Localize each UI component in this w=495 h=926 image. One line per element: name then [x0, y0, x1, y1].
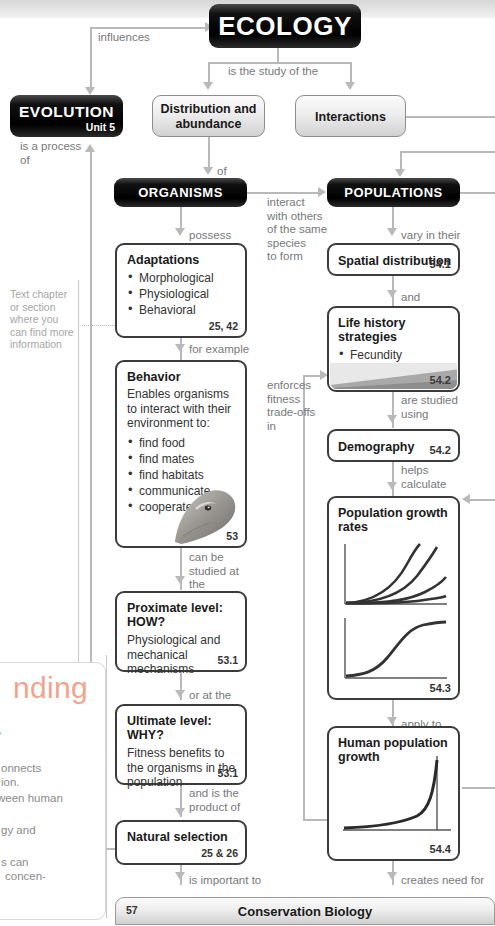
cut-off-side-panel: nding • onnects ion. ween human gy and s… — [0, 662, 106, 920]
node-ultimate-level[interactable]: Ultimate level: WHY? Fitness benefits to… — [115, 704, 247, 785]
label-are-studied-using: are studied using — [401, 394, 458, 421]
bullet-item: Morphological — [127, 270, 245, 286]
label-can-be-studied: can be studied at the — [189, 551, 239, 592]
arrow-to-demography — [387, 415, 397, 423]
connector-influences-down — [90, 27, 92, 89]
node-distribution-abundance[interactable]: Distribution and abundance — [152, 95, 265, 137]
node-ecology-title: ECOLOGY — [209, 4, 361, 48]
connector-right-bus-upper — [400, 151, 495, 153]
arrow-to-growth-rates — [387, 482, 397, 490]
node-proximate-ref: 53.1 — [218, 654, 238, 666]
node-interactions[interactable]: Interactions — [295, 95, 406, 137]
connector-populations-right — [460, 192, 495, 194]
connector-ecology-influences — [90, 27, 208, 29]
connector-interactions-right — [406, 116, 495, 118]
node-ultimate-body: Fitness benefits to the organisms in the… — [117, 742, 245, 790]
node-demography-ref: 54.2 — [430, 444, 451, 456]
node-adaptations[interactable]: Adaptations Morphological Physiological … — [115, 243, 247, 338]
node-organisms[interactable]: ORGANISMS — [114, 178, 247, 207]
bullet-item: find food — [127, 435, 245, 451]
node-ecology[interactable]: ECOLOGY — [209, 4, 361, 48]
node-populations[interactable]: POPULATIONS — [327, 178, 460, 207]
node-behavior-title: Behavior — [117, 362, 245, 384]
annotation-text-chapter: Text chapter or section where you can fi… — [10, 288, 78, 351]
node-evolution[interactable]: EVOLUTION Unit 5 — [10, 95, 123, 137]
arrow-to-interactions — [345, 82, 355, 90]
cut-panel-line: onnects — [1, 761, 41, 775]
bullet-item: find habitats — [127, 467, 245, 483]
label-for-example: for example — [189, 343, 249, 357]
node-adaptations-title: Adaptations — [117, 245, 245, 267]
connector-organisms-populations — [247, 192, 322, 194]
arrow-to-evolution-bottom — [85, 144, 95, 152]
arrow-to-human-growth — [387, 717, 397, 725]
node-ultimate-ref: 53.1 — [218, 767, 238, 779]
arrow-to-populations-top — [395, 169, 405, 177]
node-proximate-body: Physiological and mechanical mechanisms — [117, 629, 245, 677]
label-interact-to-form: interact with others of the same species… — [267, 196, 327, 264]
connector-human-right — [462, 787, 495, 789]
label-and-is-product-of: and is the product of — [189, 787, 240, 814]
node-populations-title: POPULATIONS — [327, 178, 460, 207]
arrow-to-behavior — [175, 344, 185, 352]
node-interactions-title: Interactions — [296, 96, 405, 138]
arrow-to-proximate — [175, 576, 185, 584]
node-behavior[interactable]: Behavior Enables organisms to interact w… — [115, 360, 247, 548]
connector-ecology-bus — [208, 62, 351, 64]
connector-enforces-riser — [303, 375, 305, 820]
node-adaptations-ref: 25, 42 — [209, 320, 238, 332]
node-distribution-title: Distribution and abundance — [153, 96, 264, 131]
arrow-to-ultimate — [175, 690, 185, 698]
arrow-to-spatial — [387, 228, 397, 236]
label-vary-in-their: vary in their — [401, 229, 460, 243]
bullet-item: Behavioral — [127, 302, 245, 318]
bullet-item: find mates — [127, 451, 245, 467]
label-is-important-to: is important to — [189, 874, 261, 888]
node-natural-selection[interactable]: Natural selection 25 & 26 — [115, 820, 247, 865]
node-human-population-growth[interactable]: Human population growth 54.4 — [327, 726, 460, 861]
node-evolution-title: EVOLUTION — [10, 95, 123, 119]
arrow-to-organisms — [203, 167, 213, 175]
label-or-at-the: or at the — [189, 689, 231, 703]
cut-panel-line: gy and — [1, 823, 36, 837]
node-adaptations-bullets: Morphological Physiological Behavioral — [117, 270, 245, 318]
chart-exponential-growth-family — [341, 542, 451, 609]
cut-panel-line: ion. — [1, 775, 20, 789]
node-organisms-title: ORGANISMS — [114, 178, 247, 207]
label-influences: influences — [98, 31, 150, 45]
chart-human-population-growth — [339, 754, 457, 838]
label-of: of — [217, 165, 227, 179]
node-life-history-strategies[interactable]: Life history strategies Fecundity Surviv… — [327, 306, 460, 392]
connector-enforces-base — [303, 819, 327, 821]
arrow-into-growth-rates — [462, 494, 470, 504]
node-demography[interactable]: Demography 54.2 — [327, 429, 460, 462]
node-growth-rates-title: Population growth rates — [329, 498, 458, 534]
cut-panel-line: ween human — [0, 791, 63, 805]
node-evolution-ref: Unit 5 — [86, 121, 115, 133]
node-conservation-biology[interactable]: 57 Conservation Biology — [115, 897, 495, 925]
node-human-growth-ref: 54.4 — [430, 843, 451, 855]
arrow-to-lifehistory — [387, 290, 397, 298]
node-lifehistory-ref: 54.2 — [430, 374, 451, 386]
cut-panel-title: nding — [13, 671, 88, 705]
label-enforces: enforces fitness trade-offs in — [267, 379, 315, 433]
node-natural-selection-ref: 25 & 26 — [201, 847, 238, 859]
node-population-growth-rates[interactable]: Population growth rates 54.3 — [327, 496, 460, 700]
label-possess: possess — [189, 229, 231, 243]
arrow-to-natural-selection — [175, 808, 185, 816]
node-proximate-title: Proximate level: HOW? — [117, 593, 245, 629]
node-spatial-ref: 54.1 — [430, 258, 451, 270]
connector-growth-right — [470, 499, 495, 501]
node-natural-selection-title: Natural selection — [117, 822, 245, 844]
arrow-to-populations — [318, 187, 326, 197]
node-proximate-level[interactable]: Proximate level: HOW? Physiological and … — [115, 591, 247, 672]
node-spatial-distribution[interactable]: Spatial distribution 54.1 — [327, 243, 460, 276]
node-behavior-ref: 53 — [226, 530, 238, 542]
node-growth-rates-ref: 54.3 — [430, 682, 451, 694]
node-conservation-title: Conservation Biology — [116, 898, 494, 926]
arrow-to-adaptations — [175, 228, 185, 236]
arrow-to-conservation-right — [387, 872, 397, 880]
connector-ecology-stem — [277, 48, 279, 62]
arrow-to-distribution — [203, 82, 213, 90]
label-helps-calculate: helps calculate — [401, 464, 446, 491]
